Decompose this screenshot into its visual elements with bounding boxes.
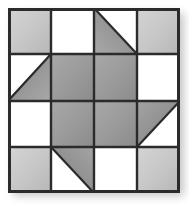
cell-r1c3 [137,54,180,101]
cell-r1c2 [94,54,137,101]
cell-r2c1 [51,101,94,147]
quilt-block-canvas [8,8,180,193]
cell-r2c2 [94,101,137,147]
cell-r0c3 [137,8,180,54]
cell-r2c0 [8,101,51,147]
cell-r1c1 [51,54,94,101]
quilt-block [8,8,180,193]
cell-r3c3 [137,147,180,193]
cell-r3c2 [94,147,137,193]
quilt-block-figure [0,0,189,205]
cell-r0c0 [8,8,51,54]
cell-r0c1 [51,8,94,54]
cell-r3c0 [8,147,51,193]
